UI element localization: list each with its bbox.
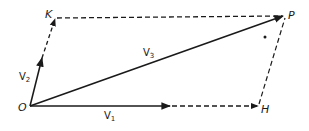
vector-v2-solid [30, 58, 42, 106]
vector-label-v3: V3 [143, 47, 154, 60]
vector-v3 [30, 16, 283, 106]
point-label-o: O [18, 101, 27, 114]
dashed-line-k-p [57, 16, 282, 18]
point-label-p: P [288, 9, 295, 22]
vector-v2-dashed [42, 19, 55, 58]
vector-diagram: O K P H V1 V2 V3 [0, 0, 309, 131]
vector-label-v2: V2 [19, 71, 30, 84]
dot-mark [264, 36, 267, 39]
point-label-k: K [45, 8, 53, 21]
vector-label-v1: V1 [104, 110, 115, 123]
point-label-h: H [261, 103, 269, 116]
dashed-line-h-p [259, 18, 285, 104]
